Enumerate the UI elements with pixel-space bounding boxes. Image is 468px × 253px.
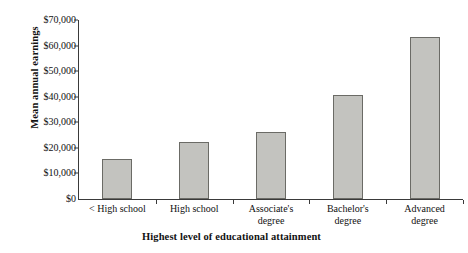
x-axis-tick-label: Advanceddegree [380, 203, 468, 226]
x-axis-tick-labels: < High schoolHigh schoolAssociate'sdegre… [79, 203, 463, 229]
plot-area [79, 20, 463, 199]
y-axis-tick-label: $20,000 [30, 143, 76, 153]
y-axis-tick-mark [74, 71, 78, 72]
y-axis-tick-label: $50,000 [30, 66, 76, 76]
x-axis-title: Highest level of educational attainment [0, 231, 463, 242]
y-axis-tick-label: $40,000 [30, 92, 76, 102]
bar [102, 159, 132, 199]
y-axis-tick-labels: $0$10,000$20,000$30,000$40,000$50,000$60… [30, 20, 76, 199]
x-axis-tick-mark [463, 200, 464, 204]
y-axis-tick-mark [74, 45, 78, 46]
y-axis-tick-label: $70,000 [30, 15, 76, 25]
x-axis-tick-mark [309, 200, 310, 204]
x-axis-line [78, 199, 463, 200]
bar [256, 132, 286, 199]
y-axis-tick-mark [74, 122, 78, 123]
y-axis-tick-mark [74, 147, 78, 148]
y-axis-tick-mark [74, 173, 78, 174]
bar [410, 37, 440, 199]
y-axis-tick-mark [74, 96, 78, 97]
bar [333, 95, 363, 199]
y-axis-tick-label: $10,000 [30, 168, 76, 178]
x-axis-tick-mark [156, 200, 157, 204]
y-axis-tick-label: $30,000 [30, 117, 76, 127]
x-axis-tick-mark [386, 200, 387, 204]
bar [179, 142, 209, 199]
y-axis-tick-label: $0 [30, 194, 76, 204]
y-axis-tick-mark [74, 20, 78, 21]
y-axis-tick-label: $60,000 [30, 41, 76, 51]
x-axis-tick-mark [233, 200, 234, 204]
